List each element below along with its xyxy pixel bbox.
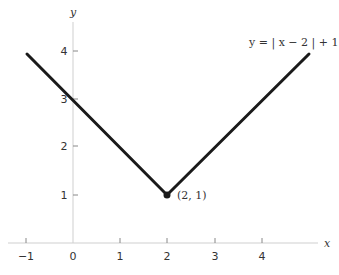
svg-text:4: 4 — [259, 250, 266, 263]
chart: −1 0 1 2 3 4 1 2 3 4 y x (2, 1) y = | x … — [0, 0, 339, 275]
x-tick-labels: −1 0 1 2 3 4 — [18, 250, 266, 263]
svg-text:−1: −1 — [18, 250, 34, 263]
svg-text:4: 4 — [61, 45, 68, 58]
svg-text:1: 1 — [117, 250, 124, 263]
svg-text:3: 3 — [212, 250, 219, 263]
y-axis-label: y — [69, 6, 77, 19]
vertex-label: (2, 1) — [177, 189, 207, 202]
svg-text:1: 1 — [61, 189, 68, 202]
svg-text:2: 2 — [61, 140, 68, 153]
vertex-point — [164, 192, 171, 199]
y-tick-labels: 1 2 3 4 — [61, 45, 68, 202]
x-ticks — [26, 238, 262, 243]
svg-text:2: 2 — [164, 250, 171, 263]
y-ticks — [73, 51, 78, 195]
abs-value-curve — [27, 54, 309, 195]
equation-label: y = | x − 2 | + 1 — [248, 36, 338, 50]
svg-text:0: 0 — [70, 250, 77, 263]
x-axis-label: x — [324, 237, 331, 250]
